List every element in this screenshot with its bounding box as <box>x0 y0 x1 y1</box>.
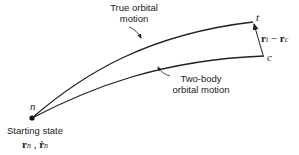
true-orbit-label-line2: motion <box>98 13 170 24</box>
point-label-c: c <box>267 52 272 63</box>
start-point-dot <box>29 115 34 120</box>
true-orbit-label: True orbital motion <box>98 2 170 24</box>
r-c-subscript: c <box>285 35 289 44</box>
true-orbit-label-line1: True orbital <box>98 2 170 13</box>
true-orbit-curve <box>32 22 253 118</box>
true-orbit-pointer <box>129 27 141 38</box>
starting-state-label: Starting state <box>2 125 68 136</box>
rdot-n-subscript: n <box>44 141 48 150</box>
difference-vector-label: rt − rc <box>261 32 288 46</box>
starting-state-vectors: rn , ṙn <box>2 138 68 152</box>
starting-state-text: Starting state <box>2 125 68 136</box>
two-body-label: Two-body orbital motion <box>166 73 236 95</box>
point-label-t: t <box>256 12 259 23</box>
comma: , <box>31 138 39 150</box>
two-body-label-line1: Two-body <box>166 73 236 84</box>
minus-sign: − <box>268 32 280 44</box>
two-body-label-line2: orbital motion <box>166 84 236 95</box>
point-label-n: n <box>30 101 36 112</box>
